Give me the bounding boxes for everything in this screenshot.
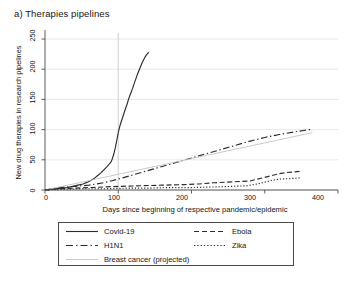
legend-swatch-solid-icon bbox=[65, 228, 99, 235]
legend-swatch-dotted-icon bbox=[193, 242, 227, 249]
series-line-breast-cancer-projected bbox=[45, 133, 312, 190]
legend-item-ebola[interactable]: Ebola bbox=[193, 227, 301, 236]
legend-item-breast-cancer-projected[interactable]: Breast cancer (projected) bbox=[65, 255, 193, 264]
legend-label-breast-cancer-projected: Breast cancer (projected) bbox=[104, 255, 189, 264]
legend-item-h1n1[interactable]: H1N1 bbox=[65, 241, 193, 250]
series-line-covid-19 bbox=[45, 52, 149, 190]
legend-swatch-thin-light-icon bbox=[65, 256, 99, 263]
chart-legend: Covid-19 Ebola H1N1 Zika bbox=[58, 222, 294, 266]
legend-swatch-dashed-icon bbox=[193, 228, 227, 235]
legend-item-zika[interactable]: Zika bbox=[193, 241, 301, 250]
legend-label-covid-19: Covid-19 bbox=[104, 227, 134, 236]
legend-label-zika: Zika bbox=[232, 241, 246, 250]
legend-swatch-dash-dot-icon bbox=[65, 242, 99, 249]
legend-item-covid-19[interactable]: Covid-19 bbox=[65, 227, 193, 236]
figure-panel: a) Therapies pipelines New drug therapie… bbox=[0, 0, 352, 282]
legend-label-h1n1: H1N1 bbox=[104, 241, 123, 250]
legend-label-ebola: Ebola bbox=[232, 227, 251, 236]
